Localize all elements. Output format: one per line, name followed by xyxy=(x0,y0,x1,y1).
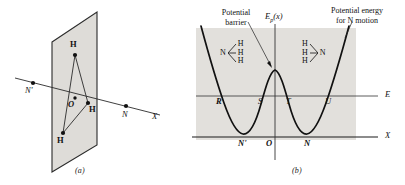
potential-energy-title-line1: Potential energy xyxy=(311,6,403,16)
molecule-right-bond-lines xyxy=(309,40,318,66)
molecule-right-center: N xyxy=(319,40,326,66)
origin-label: O xyxy=(266,139,272,149)
potential-barrier-line1: Potential xyxy=(209,8,263,18)
molecule-left-h3: H xyxy=(238,57,244,66)
potential-barrier-line2: barrier xyxy=(209,18,263,28)
molecule-diagram-left: N H H H xyxy=(220,40,244,66)
potential-energy-title-line2: for N motion xyxy=(311,16,403,26)
panel-b-drawing xyxy=(0,0,405,185)
axis-label-position: X xyxy=(385,131,390,141)
molecule-left-bond-lines xyxy=(228,40,237,66)
level-point-label-R: R xyxy=(216,97,222,107)
well-minimum-label-right: N xyxy=(304,139,310,149)
energy-axis-label: Ep(x) xyxy=(265,12,283,23)
axis-label-energy: E xyxy=(385,90,390,100)
molecule-right-h3: H xyxy=(302,57,308,66)
well-minimum-label-left: N' xyxy=(238,139,247,149)
molecule-left-bonds xyxy=(227,40,238,66)
molecule-diagram-right: H N H H xyxy=(302,40,326,66)
level-point-label-S: S xyxy=(258,97,262,107)
level-point-label-T: T xyxy=(286,97,291,107)
caption-panel-b: (b) xyxy=(292,166,302,175)
figure-panel-b: Potential barrier Ep(x) Potential energy… xyxy=(0,0,405,185)
potential-barrier-annotation: Potential barrier xyxy=(209,8,263,28)
energy-axis-label-arg: (x) xyxy=(273,11,282,21)
molecule-left-center: N xyxy=(220,40,227,66)
potential-energy-title: Potential energy for N motion xyxy=(311,6,403,26)
molecule-right-bonds xyxy=(308,40,319,66)
level-point-label-U: U xyxy=(325,97,331,107)
